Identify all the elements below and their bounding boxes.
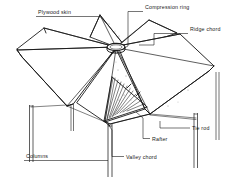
columns-label: Columns (26, 153, 48, 159)
plywood-skin-label: Plywood skin (38, 9, 71, 15)
compression-ring-label: Compression ring (145, 4, 189, 10)
ridge-chord-label: Ridge chord (190, 26, 221, 32)
rafter-label: Rafter (152, 136, 168, 142)
umbrella-roof-diagram: Plywood skin Compression ring Ridge chor… (0, 0, 232, 181)
valley-chord-label: Valley chord (126, 154, 157, 160)
tie-rod-label: Tie rod (192, 125, 210, 131)
figure-root: Plywood skin Compression ring Ridge chor… (0, 0, 232, 181)
